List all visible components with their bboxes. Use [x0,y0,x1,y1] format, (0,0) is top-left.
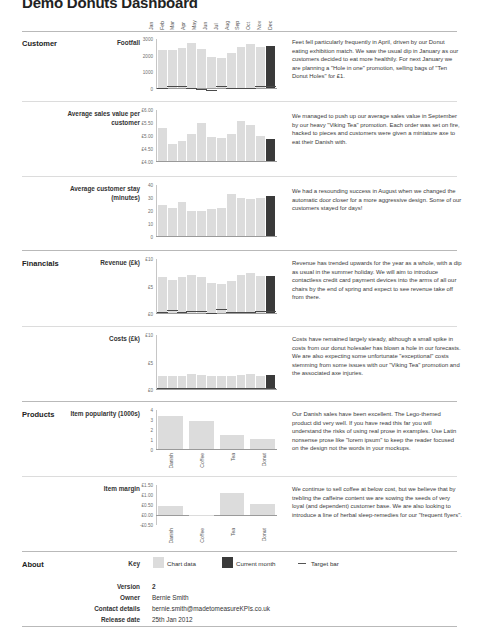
bar[interactable] [256,136,265,162]
target-marker [245,88,256,89]
bar[interactable] [250,504,275,515]
bar[interactable] [158,205,167,236]
bar[interactable] [197,211,206,237]
bar[interactable] [168,208,177,236]
bar[interactable] [158,416,183,449]
bar[interactable] [168,144,177,161]
x-axis-category-labels: DanishCoffeeTeaDonut [158,527,277,553]
bar[interactable] [178,202,187,236]
bar[interactable] [187,43,196,88]
bar-current-month[interactable] [266,196,275,236]
bar[interactable] [197,277,206,313]
bar[interactable] [158,128,167,161]
y-tick-label: 2000 [143,53,153,58]
bar[interactable] [187,275,196,313]
bar[interactable] [187,211,196,237]
target-marker [157,88,168,89]
bar[interactable] [227,281,236,313]
bar-slot [220,485,245,524]
bar-current-month[interactable] [266,46,275,88]
bar[interactable] [256,376,265,390]
x-tick-label: Donut [252,527,277,553]
y-axis: £0£5£10 [131,259,155,314]
bar[interactable] [207,209,216,236]
bar-current-month[interactable] [266,375,275,389]
bar[interactable] [237,47,246,88]
bar[interactable] [178,48,187,88]
y-tick-label: £1.50 [142,483,154,488]
bar[interactable] [246,125,255,161]
bar[interactable] [207,283,216,313]
commentary-costs: Costs have remained largely steady, alth… [292,335,462,378]
bar[interactable] [256,198,265,236]
bar[interactable] [250,439,275,449]
dashboard-page: Demo Donuts Dashboard JanFebMarAprMayJun… [0,0,479,636]
about-key-label: Key [44,560,140,567]
bar[interactable] [237,121,246,161]
bar[interactable] [217,138,226,161]
plot-area [156,485,277,525]
target-marker [157,312,168,313]
x-tick-label: Tea [221,452,246,478]
month-label-jul: Jul [213,23,219,30]
bar[interactable] [217,284,226,313]
bar[interactable] [246,44,255,88]
about-value-contact-details[interactable]: bernie.smith@madetomeasureKPIs.co.uk [152,605,270,612]
bar[interactable] [197,123,206,161]
bar[interactable] [217,376,226,390]
legend-swatch-current-month [222,557,233,568]
bar[interactable] [189,515,214,516]
bar[interactable] [217,208,226,236]
bar[interactable] [246,199,255,236]
month-axis-header: JanFebMarAprMayJunJulAugSepOctNovDec [146,4,276,30]
bar[interactable] [178,277,187,313]
bar[interactable] [256,276,265,313]
month-label-jan: Jan [148,22,154,30]
bar[interactable] [207,137,216,161]
bar[interactable] [168,376,177,389]
bar[interactable] [197,49,206,88]
bar[interactable] [189,421,214,449]
bar[interactable] [187,374,196,389]
bar[interactable] [237,275,246,313]
y-tick-label: 30 [148,196,153,201]
divider-top [22,31,457,32]
bar[interactable] [237,375,246,389]
bar[interactable] [227,134,236,161]
bar[interactable] [220,435,245,449]
bar[interactable] [207,57,216,88]
y-axis-line [156,259,157,314]
bar-current-month[interactable] [266,276,275,313]
y-tick-label: £0 [148,388,153,393]
bar[interactable] [178,141,187,161]
month-label-mar: Mar [169,21,175,30]
month-label-jun: Jun [202,22,208,30]
bar[interactable] [197,375,206,389]
bar-current-month[interactable] [266,139,275,161]
bar[interactable] [158,50,167,88]
bar[interactable] [220,493,245,515]
bar[interactable] [207,376,216,389]
bar[interactable] [158,277,167,313]
y-tick-label: 40 [148,183,153,188]
bar[interactable] [168,50,177,88]
chart-average-sales-value: £4.00£4.50£5.00£5.50£6.00 [131,110,277,162]
bar[interactable] [227,53,236,88]
bar[interactable] [227,194,236,236]
bar[interactable] [168,280,177,313]
plot-area [156,335,277,390]
bar[interactable] [158,506,183,515]
legend-label-chart-data: Chart data [167,560,196,567]
bar[interactable] [237,198,246,236]
bar[interactable] [256,47,265,88]
bar[interactable] [246,374,255,389]
legend-swatch-target-bar [298,563,306,564]
y-tick-label: £1.00 [142,493,154,498]
bar[interactable] [158,376,167,390]
bar[interactable] [246,273,255,313]
bar[interactable] [227,376,236,390]
commentary-item-popularity: Our Danish sales have been excellent. Th… [292,410,462,453]
bar[interactable] [187,134,196,161]
bar[interactable] [217,58,226,88]
bar[interactable] [178,376,187,390]
